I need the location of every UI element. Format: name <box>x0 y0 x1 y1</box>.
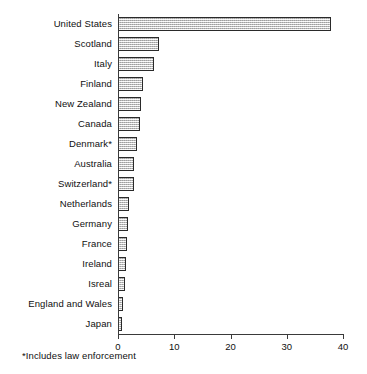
bar-row: Ireland <box>0 254 367 274</box>
bar-row: New Zealand <box>0 94 367 114</box>
x-axis-tick <box>287 334 288 339</box>
bar-row: Scotland <box>0 34 367 54</box>
bar-category-label: Netherlands <box>0 194 112 214</box>
bar-row: Australia <box>0 154 367 174</box>
bar-row: Isreal <box>0 274 367 294</box>
bar-category-label: United States <box>0 14 112 34</box>
bar-category-label: Australia <box>0 154 112 174</box>
bar-category-label: France <box>0 234 112 254</box>
bar-row: Finland <box>0 74 367 94</box>
bar <box>118 137 137 151</box>
bar-category-label: New Zealand <box>0 94 112 114</box>
bar-row: Italy <box>0 54 367 74</box>
bar-row: Germany <box>0 214 367 234</box>
bar-category-label: Japan <box>0 314 112 334</box>
bar <box>118 237 127 251</box>
bar <box>118 157 134 171</box>
y-axis-line <box>118 14 119 335</box>
bar <box>118 57 154 71</box>
bar-row: Switzerland* <box>0 174 367 194</box>
bar <box>118 217 128 231</box>
bar-category-label: Denmark* <box>0 134 112 154</box>
bar-row: Japan <box>0 314 367 334</box>
bar-row: United States <box>0 14 367 34</box>
bar-row: France <box>0 234 367 254</box>
bar-category-label: Germany <box>0 214 112 234</box>
x-axis-tick <box>343 334 344 339</box>
bar <box>118 97 141 111</box>
bar-category-label: Switzerland* <box>0 174 112 194</box>
bar <box>118 37 159 51</box>
x-axis-tick-label: 10 <box>159 341 189 352</box>
chart-footnote: *Includes law enforcement <box>22 350 136 361</box>
bar-category-label: Scotland <box>0 34 112 54</box>
bar-row: Denmark* <box>0 134 367 154</box>
x-axis-tick-label: 40 <box>328 341 358 352</box>
bar <box>118 77 143 91</box>
bar-chart-figure: United StatesScotlandItalyFinlandNew Zea… <box>0 0 367 374</box>
bar <box>118 257 126 271</box>
x-axis-tick <box>174 334 175 339</box>
bar-category-label: Finland <box>0 74 112 94</box>
bar-category-label: Ireland <box>0 254 112 274</box>
x-axis-tick <box>118 334 119 339</box>
x-axis-tick <box>231 334 232 339</box>
bar <box>118 17 331 31</box>
bar-category-label: Isreal <box>0 274 112 294</box>
bar-row: Netherlands <box>0 194 367 214</box>
bar <box>118 197 129 211</box>
x-axis-tick-label: 30 <box>272 341 302 352</box>
bar-category-label: England and Wales <box>0 294 112 314</box>
bar-row: Canada <box>0 114 367 134</box>
x-axis-tick-label: 20 <box>216 341 246 352</box>
plot-area: United StatesScotlandItalyFinlandNew Zea… <box>0 0 367 374</box>
bar <box>118 117 140 131</box>
bar <box>118 277 125 291</box>
bar-category-label: Canada <box>0 114 112 134</box>
bar <box>118 177 134 191</box>
bar-row: England and Wales <box>0 294 367 314</box>
bar-category-label: Italy <box>0 54 112 74</box>
